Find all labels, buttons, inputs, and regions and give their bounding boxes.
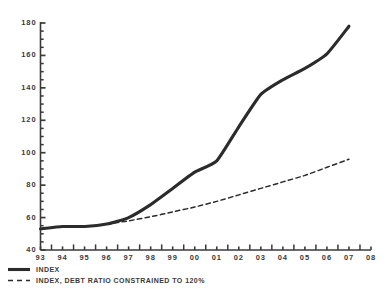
x-axis-tick-label: 05	[295, 254, 315, 262]
series-line-index-constrained	[107, 159, 349, 224]
y-axis-tick-label: 80	[6, 181, 37, 189]
y-axis-tick-label: 140	[6, 84, 37, 92]
chart-legend: INDEX INDEX, DEBT RATIO CONSTRAINED TO 1…	[8, 264, 338, 286]
chart-plot-area	[0, 0, 389, 289]
y-axis-tick-label: 180	[6, 19, 37, 27]
x-axis-tick-label: 06	[317, 254, 337, 262]
y-axis-tick-label: 160	[6, 51, 37, 59]
legend-item-index: INDEX	[8, 264, 338, 275]
x-axis-tick-label: 00	[185, 254, 205, 262]
legend-swatch-dashed-line-icon	[8, 276, 30, 285]
y-axis-tick-label: 40	[6, 246, 37, 254]
x-axis-tick-label: 01	[207, 254, 227, 262]
x-axis-tick-label: 98	[141, 254, 161, 262]
line-chart: 406080100120140160180 939495969798990001…	[0, 0, 389, 289]
x-axis-tick-label: 04	[273, 254, 293, 262]
legend-label-index: INDEX	[36, 266, 60, 273]
x-axis-tick-label: 99	[163, 254, 183, 262]
x-axis-tick-label: 95	[75, 254, 95, 262]
legend-label-index-constrained: INDEX, DEBT RATIO CONSTRAINED TO 120%	[36, 277, 205, 284]
chart-series-group	[41, 26, 349, 229]
x-axis-minor-ticks	[52, 244, 360, 250]
x-axis-tick-label: 94	[53, 254, 73, 262]
x-axis-tick-label: 03	[251, 254, 271, 262]
series-line-index	[41, 26, 349, 229]
y-axis-tick-label: 120	[6, 116, 37, 124]
x-axis-tick-label: 02	[229, 254, 249, 262]
y-axis-tick-label: 100	[6, 149, 37, 157]
y-axis-tick-label: 60	[6, 214, 37, 222]
x-axis-tick-label: 08	[361, 254, 381, 262]
x-axis-tick-label: 96	[97, 254, 117, 262]
x-axis-tick-label: 97	[119, 254, 139, 262]
x-axis-tick-label: 93	[31, 254, 51, 262]
x-axis-tick-label: 07	[339, 254, 359, 262]
legend-swatch-solid-line-icon	[8, 265, 30, 274]
legend-item-index-constrained: INDEX, DEBT RATIO CONSTRAINED TO 120%	[8, 275, 338, 286]
